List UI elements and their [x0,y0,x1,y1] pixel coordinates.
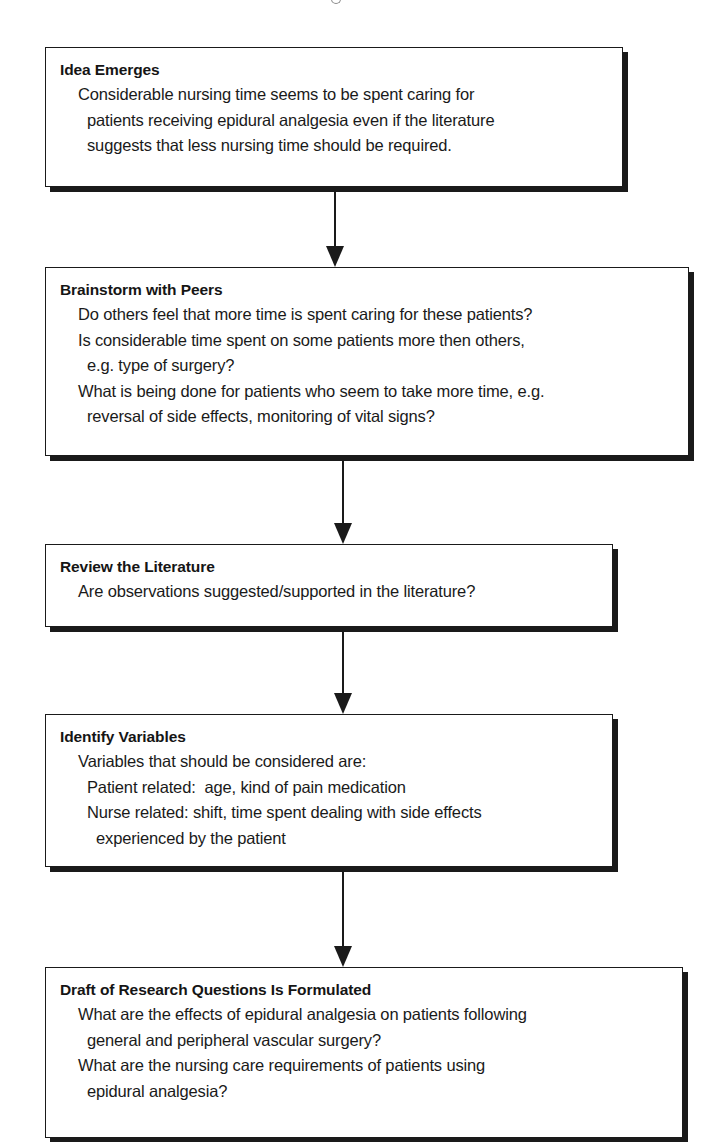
arrow-stem [342,872,344,948]
step-brainstorm-with-peers: Brainstorm with Peers Do others feel tha… [45,267,689,456]
step-text-line: e.g. type of surgery? [60,353,678,379]
arrow-down-icon [334,872,352,967]
step-text-line: Considerable nursing time seems to be sp… [60,82,612,108]
step-text-line: general and peripheral vascular surgery? [60,1028,672,1054]
step-review-the-literature: Review the Literature Are observations s… [45,544,613,627]
step-text-line: Patient related: age, kind of pain medic… [60,775,602,801]
step-text-line: reversal of side effects, monitoring of … [60,404,678,430]
step-heading: Review the Literature [60,557,602,577]
arrow-down-icon [334,461,352,544]
step-text-line: epidural analgesia? [60,1079,672,1105]
step-text-line: experienced by the patient [60,826,602,852]
arrow-stem [334,192,336,248]
step-draft-research-questions: Draft of Research Questions Is Formulate… [45,967,683,1138]
arrowhead-icon [326,246,344,267]
step-text-line: Do others feel that more time is spent c… [60,302,678,328]
step-heading: Brainstorm with Peers [60,280,678,300]
step-heading: Identify Variables [60,727,602,747]
step-heading: Draft of Research Questions Is Formulate… [60,980,672,1000]
step-text-line: suggests that less nursing time should b… [60,133,612,159]
clipped-caption-fragment [331,0,341,4]
step-text-line: What are the nursing care requirements o… [60,1053,672,1079]
arrowhead-icon [334,523,352,544]
step-text-line: Is considerable time spent on some patie… [60,328,678,354]
arrow-down-icon [326,192,344,267]
step-heading: Idea Emerges [60,60,612,80]
step-text-line: What is being done for patients who seem… [60,379,678,405]
step-text-line: Nurse related: shift, time spent dealing… [60,800,602,826]
step-text-line: Variables that should be considered are: [60,749,602,775]
step-text-line: What are the effects of epidural analges… [60,1002,672,1028]
arrow-stem [342,461,344,525]
step-text-line: patients receiving epidural analgesia ev… [60,108,612,134]
arrowhead-icon [334,693,352,714]
step-idea-emerges: Idea Emerges Considerable nursing time s… [45,47,623,187]
step-identify-variables: Identify Variables Variables that should… [45,714,613,867]
step-text-line: Are observations suggested/supported in … [60,579,602,605]
arrow-stem [342,632,344,695]
arrow-down-icon [334,632,352,714]
arrowhead-icon [334,946,352,967]
